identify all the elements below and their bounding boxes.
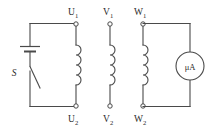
label-v1-sub: 1 bbox=[110, 12, 113, 19]
label-u2: U2 bbox=[68, 114, 78, 126]
switch-blade bbox=[30, 67, 40, 89]
coil-u bbox=[76, 45, 81, 85]
label-w2-sub: 2 bbox=[143, 119, 146, 126]
microammeter-label: μA bbox=[185, 62, 197, 72]
terminal-v2 bbox=[108, 104, 112, 108]
terminal-v1 bbox=[108, 22, 112, 26]
label-v2: V2 bbox=[103, 114, 113, 126]
label-v1: V1 bbox=[103, 7, 113, 19]
label-u1-sub: 1 bbox=[75, 12, 78, 19]
coil-w bbox=[143, 45, 148, 85]
coil-v bbox=[110, 45, 115, 85]
label-u2-sub: 2 bbox=[75, 119, 78, 126]
label-w1-sub: 1 bbox=[143, 12, 146, 19]
label-w2-base: W bbox=[134, 114, 143, 124]
label-v2-sub: 2 bbox=[110, 119, 113, 126]
label-w2: W2 bbox=[134, 114, 146, 126]
terminal-u1 bbox=[74, 22, 78, 26]
label-switch: S bbox=[12, 68, 17, 78]
label-w1: W1 bbox=[134, 7, 146, 19]
label-u1: U1 bbox=[68, 7, 78, 19]
circuit-diagram: μA U1 U2 V1 V2 W1 W2 S bbox=[0, 0, 209, 131]
terminal-u2 bbox=[74, 104, 78, 108]
label-w1-base: W bbox=[134, 7, 143, 17]
circuit-schematic-canvas: μA U1 U2 V1 V2 W1 W2 S bbox=[0, 0, 209, 131]
